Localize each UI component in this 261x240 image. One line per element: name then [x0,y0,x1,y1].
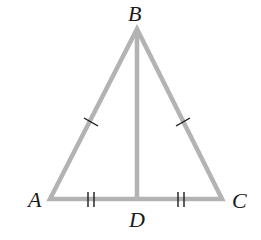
triangle-diagram: B A C D [0,0,261,240]
label-c: C [232,188,247,213]
label-b: B [128,1,141,26]
label-d: D [128,207,145,232]
label-a: A [26,187,42,212]
